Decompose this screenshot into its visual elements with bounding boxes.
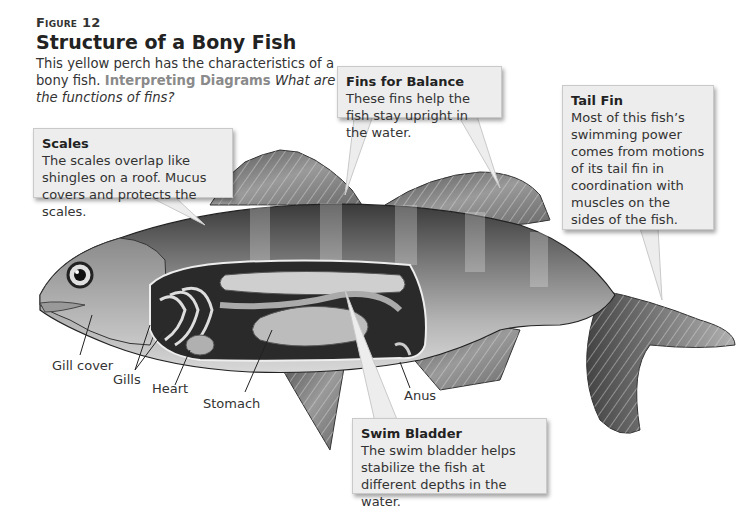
- callout-swim-bladder: Swim Bladder The swim bladder helps stab…: [352, 418, 547, 494]
- callout-fins-balance: Fins for Balance These fins help the fis…: [337, 66, 502, 118]
- callout-fins-balance-text: These fins help the fish stay upright in…: [346, 90, 493, 141]
- callout-scales-text: The scales overlap like shingles on a ro…: [42, 152, 224, 220]
- label-gill-cover: Gill cover: [52, 358, 113, 373]
- callout-scales: Scales The scales overlap like shingles …: [33, 128, 233, 198]
- label-gills: Gills: [113, 372, 141, 387]
- label-stomach: Stomach: [203, 396, 260, 411]
- callout-swim-bladder-text: The swim bladder helps stabilize the fis…: [361, 442, 538, 510]
- label-heart: Heart: [152, 381, 188, 396]
- callout-swim-bladder-title: Swim Bladder: [361, 425, 538, 442]
- callout-tail-fin: Tail Fin Most of this fish’s swimming po…: [562, 85, 714, 230]
- heart-shape: [186, 335, 214, 355]
- tail-fin-shape: [587, 290, 735, 433]
- label-anus: Anus: [404, 388, 436, 403]
- callout-tail-fin-title: Tail Fin: [571, 92, 705, 109]
- callout-fins-balance-title: Fins for Balance: [346, 73, 493, 90]
- swim-bladder-shape: [220, 272, 405, 295]
- pelvic-fin: [280, 362, 345, 450]
- fish-head: [40, 238, 166, 345]
- callout-scales-title: Scales: [42, 135, 224, 152]
- callout-tail-fin-text: Most of this fish’s swimming power comes…: [571, 109, 705, 228]
